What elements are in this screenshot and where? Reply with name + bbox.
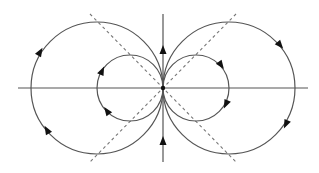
origin-point	[161, 86, 165, 90]
arrow-icon-right-large-lower	[281, 119, 291, 130]
arrow-icon-vertical-top	[160, 45, 167, 54]
arrow-icon-vertical-bottom	[160, 136, 167, 145]
arrow-icon-right-small-upper	[216, 60, 227, 71]
arrow-icon-left-small-upper	[97, 65, 107, 76]
dipole-field-diagram	[0, 0, 319, 173]
arrow-icon-left-large-upper	[35, 46, 46, 57]
